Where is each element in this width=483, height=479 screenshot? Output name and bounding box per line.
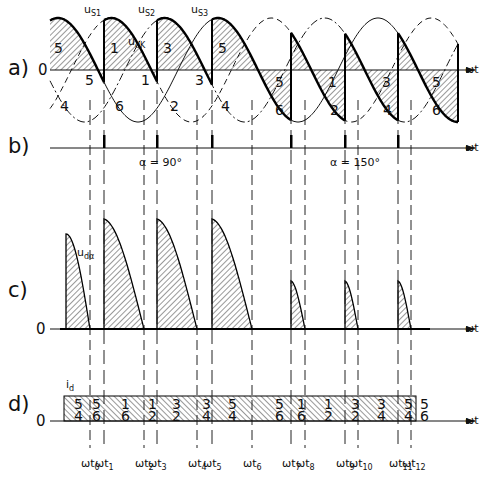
id-label: id [66, 378, 74, 393]
panel-a-lower-number: 4 [60, 98, 69, 114]
panel-d-bottom-number: 2 [351, 409, 360, 423]
panel-d-bottom-number: 4 [404, 409, 413, 423]
us2-label: uS2 [138, 3, 155, 18]
panel-d-bottom-number: 4 [202, 409, 211, 423]
panel-a-lower-number: 4 [383, 102, 392, 118]
panel-a-upper-number: 3 [163, 40, 172, 56]
panel-d-bottom-number: 2 [324, 409, 333, 423]
time-mark-5: ωt5 [203, 457, 222, 472]
udk-label: udK [128, 35, 145, 50]
panel-d-bottom-number: 4 [377, 409, 386, 423]
udalpha-label: udα [77, 246, 94, 261]
us1-label: uS1 [84, 3, 101, 18]
panel-a-lower-number: 5 [85, 72, 94, 88]
panel-a-upper-number: 5 [275, 74, 284, 90]
panel-a-lower-number: 6 [432, 102, 441, 118]
panel-a-lower-number: 1 [141, 72, 150, 88]
time-mark-8: ωt8 [296, 457, 315, 472]
hatched-areas [50, 18, 458, 421]
panel-d-bottom-number: 6 [420, 409, 429, 423]
axis-label-b: ωt [465, 141, 479, 154]
panel-a-lower-number: 4 [221, 98, 230, 114]
panel-d-zero: 0 [36, 412, 46, 430]
panel-c-label: c) [8, 278, 28, 302]
panel-d-bottom-number: 6 [275, 409, 284, 423]
panel-d-bottom-number: 6 [297, 409, 306, 423]
panel-b-label: b) [8, 134, 30, 158]
time-mark-10: ωt10 [349, 457, 373, 472]
panel-a-upper-number: 1 [328, 74, 337, 90]
panel-a-upper-number: 1 [110, 40, 119, 56]
panel-a-zero: 0 [38, 61, 48, 79]
panel-d-bottom-number: 4 [228, 409, 237, 423]
panel-a-lower-number: 6 [275, 102, 284, 118]
panel-a-lower-number: 2 [330, 102, 339, 118]
time-gridlines [90, 70, 411, 448]
panel-d-bottom-number: 2 [148, 409, 157, 423]
panel-a-upper-number: 5 [54, 40, 63, 56]
panel-a-lower-number: 2 [170, 98, 179, 114]
panel-a-upper-number: 5 [218, 40, 227, 56]
panel-d-bottom-number: 6 [92, 409, 101, 423]
alpha-90-label: α = 90° [139, 156, 182, 169]
panel-c-zero: 0 [36, 320, 46, 338]
panel-d-bottom-number: 2 [172, 409, 181, 423]
panel-a-label: a) [8, 56, 29, 80]
axis-label-c: ωt [465, 322, 479, 335]
panel-a-upper-number: 3 [382, 74, 391, 90]
axis-label-d: ωt [465, 414, 479, 427]
panel-d-bottom-number: 4 [74, 409, 83, 423]
us3-label: uS3 [191, 3, 208, 18]
time-mark-1: ωt1 [95, 457, 114, 472]
time-mark-3: ωt3 [148, 457, 167, 472]
panel-a-lower-number: 6 [115, 98, 124, 114]
panel-d-label: d) [8, 392, 30, 416]
axis-label-a: ωt [465, 63, 479, 76]
time-mark-12: ωt12 [402, 457, 426, 472]
panel-a-upper-number: 5 [432, 74, 441, 90]
panel-d-bottom-number: 6 [121, 409, 130, 423]
panel-a-lower-number: 3 [195, 72, 204, 88]
alpha-150-label: α = 150° [330, 156, 380, 169]
time-mark-6: ωt6 [243, 457, 262, 472]
